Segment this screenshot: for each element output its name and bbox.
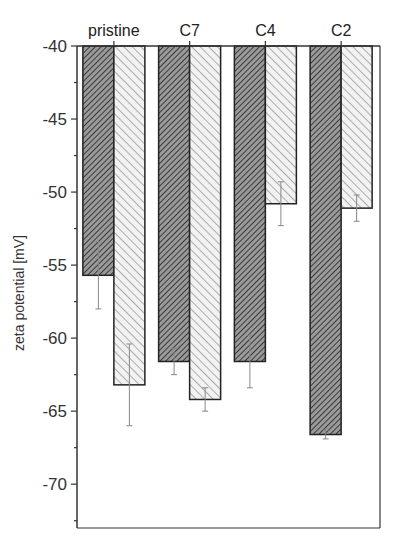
y-tick-label: -60: [42, 329, 67, 348]
bar-chart: pristineC7C4C2-40-45-50-55-60-65-70zeta …: [0, 0, 402, 543]
bar-c2-series1: [310, 46, 341, 435]
bar-c4-series1: [234, 46, 265, 361]
y-tick-label: -70: [42, 475, 67, 494]
bar-pristine-series1: [83, 46, 114, 275]
bar-pristine-series2: [114, 46, 145, 385]
y-tick-label: -45: [42, 110, 67, 129]
y-tick-label: -65: [42, 402, 67, 421]
y-tick-label: -55: [42, 256, 67, 275]
bar-c2-series2: [341, 46, 372, 208]
bar-c7-series1: [159, 46, 190, 361]
y-tick-label: -40: [42, 37, 67, 56]
bar-c4-series2: [265, 46, 296, 204]
category-label: pristine: [88, 22, 140, 39]
bar-c7-series2: [190, 46, 221, 399]
category-label: C7: [179, 22, 200, 39]
y-axis-label: zeta potential [mV]: [11, 235, 27, 351]
category-label: C2: [331, 22, 352, 39]
y-tick-label: -50: [42, 183, 67, 202]
category-label: C4: [255, 22, 276, 39]
